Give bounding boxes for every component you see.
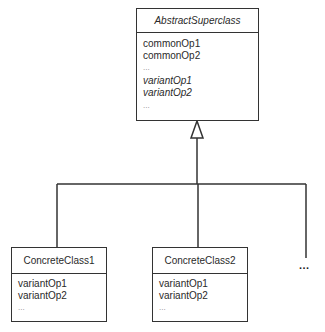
more-subclasses-ellipsis: ...: [299, 259, 310, 271]
class-name: ConcreteClass2: [153, 248, 247, 274]
operations-list: variantOp1 variantOp2 ...: [12, 274, 106, 319]
class-concreteclass2: ConcreteClass2 variantOp1 variantOp2 ...: [152, 247, 248, 322]
operations-list: commonOp1 commonOp2 ... variantOp1 varia…: [137, 33, 258, 117]
operation: commonOp2: [143, 50, 252, 62]
class-name: ConcreteClass1: [12, 248, 106, 274]
class-concreteclass1: ConcreteClass1 variantOp1 variantOp2 ...: [11, 247, 107, 322]
operation-ellipsis: ...: [143, 61, 252, 75]
operation: commonOp1: [143, 38, 252, 50]
operation-abstract: variantOp2: [143, 87, 252, 99]
class-name: AbstractSuperclass: [137, 9, 258, 33]
operation-abstract: variantOp1: [143, 75, 252, 87]
generalization-arrow-icon: [191, 121, 203, 138]
operation-ellipsis: ...: [18, 301, 100, 315]
operation: variantOp1: [159, 278, 241, 290]
operation-ellipsis: ...: [143, 99, 252, 113]
operations-list: variantOp1 variantOp2 ...: [153, 274, 247, 319]
class-abstractsuperclass: AbstractSuperclass commonOp1 commonOp2 .…: [136, 8, 259, 121]
operation-ellipsis: ...: [159, 301, 241, 315]
operation: variantOp1: [18, 278, 100, 290]
operation: variantOp2: [18, 290, 100, 302]
operation: variantOp2: [159, 290, 241, 302]
